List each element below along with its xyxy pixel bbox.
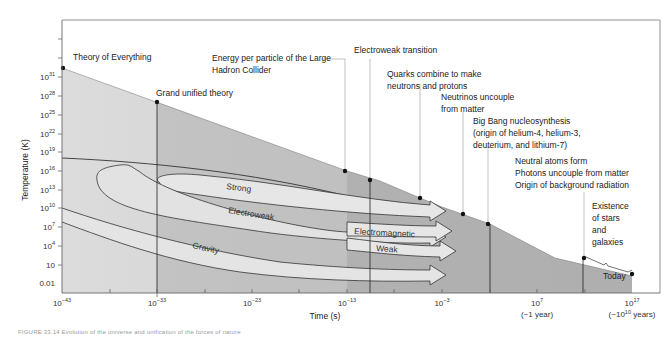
- svg-text:1016: 1016: [40, 165, 55, 176]
- chart: 1031 1028 1025 1022 1019 1016 1013 1010 …: [0, 0, 662, 341]
- x-tick-labels: 10−43 10−33 10−23 10−13 10−3 107 (~1 yea…: [53, 297, 656, 319]
- label-stars-line4: galaxies: [592, 237, 623, 247]
- svg-text:107: 107: [43, 221, 55, 232]
- label-stars-line2: of stars: [592, 213, 620, 223]
- svg-text:1013: 1013: [40, 184, 55, 195]
- svg-text:0.01: 0.01: [39, 279, 55, 288]
- atoms-dot: [582, 256, 586, 260]
- svg-text:10−23: 10−23: [243, 297, 261, 308]
- label-neutrinos-line2: from matter: [441, 104, 485, 114]
- label-atoms-line3: Origin of background radiation: [515, 180, 629, 190]
- svg-text:104: 104: [43, 240, 55, 251]
- label-electroweak-transition: Electroweak transition: [354, 45, 437, 55]
- svg-text:1022: 1022: [40, 128, 55, 139]
- label-theory-of-everything: Theory of Everything: [73, 52, 152, 62]
- label-atoms-line2: Photons uncouple from matter: [515, 168, 629, 178]
- lhc-dot: [343, 169, 347, 173]
- quarks-dot: [418, 196, 422, 200]
- label-quarks-line1: Quarks combine to make: [387, 69, 482, 79]
- label-lhc-line2: Hadron Collider: [212, 65, 271, 75]
- bbn-dot: [486, 222, 490, 226]
- svg-text:107: 107: [531, 297, 543, 308]
- label-grand-unified-theory: Grand unified theory: [156, 88, 234, 98]
- label-stars-line3: and: [592, 225, 606, 235]
- ew-dot: [368, 178, 372, 182]
- label-quarks-line2: neutrons and protons: [387, 81, 467, 91]
- label-bbn-line2: (origin of helium-4, helium-3,: [473, 128, 581, 138]
- svg-text:10−43: 10−43: [53, 297, 71, 308]
- label-bbn-line1: Big Bang nucleosynthesis: [473, 116, 570, 126]
- label-lhc-line1: Energy per particle of the Large: [212, 53, 331, 63]
- svg-text:10−13: 10−13: [338, 297, 356, 308]
- svg-text:(~1010 years): (~1010 years): [609, 309, 656, 319]
- svg-text:1025: 1025: [40, 109, 55, 120]
- y-tick-labels: 1031 1028 1025 1022 1019 1016 1013 1010 …: [39, 71, 55, 288]
- svg-text:10−33: 10−33: [148, 297, 166, 308]
- x-axis-title: Time (s): [310, 311, 341, 321]
- svg-text:1017: 1017: [624, 297, 639, 308]
- svg-text:1019: 1019: [40, 146, 55, 157]
- svg-text:10: 10: [46, 261, 55, 270]
- svg-text:10−3: 10−3: [434, 297, 449, 308]
- today-dot: [630, 272, 634, 276]
- label-bbn-line3: deuterium, and lithium-7): [473, 140, 567, 150]
- svg-text:1010: 1010: [40, 202, 55, 213]
- figure-caption: FIGURE 33.14 Evolution of the universe a…: [18, 329, 241, 335]
- label-neutrinos-line1: Neutrinos uncouple: [441, 92, 515, 102]
- gut-dot: [155, 100, 159, 104]
- y-tick-marks: [58, 39, 62, 265]
- toe-dot: [61, 66, 65, 70]
- label-today: Today: [603, 271, 626, 281]
- label-weak: Weak: [376, 243, 399, 255]
- y-axis-title: Temperature (K): [20, 139, 30, 201]
- svg-text:1028: 1028: [40, 90, 55, 101]
- svg-text:1031: 1031: [40, 71, 55, 82]
- svg-text:(~1 year): (~1 year): [521, 310, 554, 319]
- label-atoms-line1: Neutral atoms form: [515, 156, 587, 166]
- label-stars-line1: Existence: [592, 201, 629, 211]
- neutrinos-dot: [461, 212, 465, 216]
